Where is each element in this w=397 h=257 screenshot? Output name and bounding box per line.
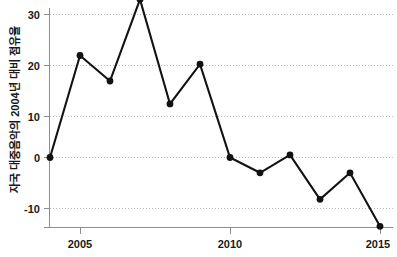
series-line [50,0,380,226]
y-tick-label: 30 [28,9,40,21]
data-point [167,101,174,108]
axis-lines [44,8,393,228]
data-point [107,78,114,85]
y-tick-label: 0 [34,152,40,164]
data-point [227,154,234,161]
y-tick-label: 10 [28,111,40,123]
x-tick-labels: 2005 2010 2015 [68,238,390,250]
x-tick-label: 2010 [218,238,242,250]
chart-plot-area: 30 20 10 0 -10 2005 2010 2015 [0,0,397,257]
data-point [257,169,264,176]
data-point [347,169,354,176]
x-tick-marks [81,228,381,235]
y-tick-label: -10 [24,203,40,215]
data-point [47,154,54,161]
data-point [377,223,384,230]
y-tick-label: 20 [28,60,40,72]
data-point [317,196,324,203]
data-point [77,52,84,59]
data-point [197,61,204,68]
y-tick-labels: 30 20 10 0 -10 [24,9,40,215]
data-point [137,0,144,3]
line-chart: 자국 대중음악의 2004년 대비 점유율 30 20 10 [0,0,397,257]
series-markers [47,0,384,230]
data-point [287,152,294,159]
x-tick-label: 2005 [68,238,92,250]
x-tick-label: 2015 [366,238,390,250]
